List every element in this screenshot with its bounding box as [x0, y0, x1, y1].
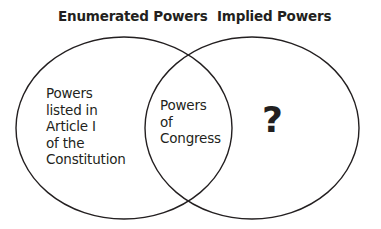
text-line: Congress — [160, 130, 221, 147]
text-line: Powers — [46, 85, 126, 102]
text-line: Constitution — [46, 151, 126, 168]
text-line: listed in — [46, 102, 126, 119]
text-line: Powers — [160, 97, 221, 114]
intersection-text: Powers of Congress — [160, 97, 221, 147]
text-line: of the — [46, 135, 126, 152]
question-mark: ? — [262, 100, 283, 140]
implied-only-question-mark: ? — [262, 100, 283, 140]
text-line: Article I — [46, 118, 126, 135]
enumerated-only-text: Powers listed in Article I of the Consti… — [46, 85, 126, 168]
implied-powers-heading: Implied Powers — [217, 8, 331, 24]
text-line: of — [160, 114, 221, 131]
enumerated-powers-heading: Enumerated Powers — [58, 8, 208, 24]
